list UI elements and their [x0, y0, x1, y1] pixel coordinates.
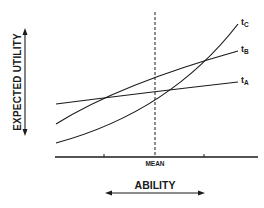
series-label-t-c: tC [241, 17, 249, 28]
curve-t-a [56, 82, 238, 104]
series-label-t-c-sub: C [244, 21, 249, 28]
series-label-t-b-sub: B [244, 48, 249, 55]
x-axis-label: ABILITY [135, 179, 176, 191]
x-arrowhead-right-icon [198, 191, 205, 196]
curve-t-b [56, 51, 238, 124]
y-arrowhead-up-icon [23, 28, 28, 35]
series-label-t-a-sub: A [244, 79, 249, 86]
series-label-t-a: tA [241, 75, 249, 86]
x-arrowhead-left-icon [105, 191, 112, 196]
curve-t-c [56, 24, 238, 143]
y-axis-label-text: EXPECTED UTILITY [12, 33, 23, 131]
y-arrowhead-down-icon [23, 129, 28, 136]
mean-tick-label: MEAN [145, 160, 164, 167]
series-label-t-b: tB [241, 44, 249, 55]
chart-canvas [0, 0, 264, 208]
